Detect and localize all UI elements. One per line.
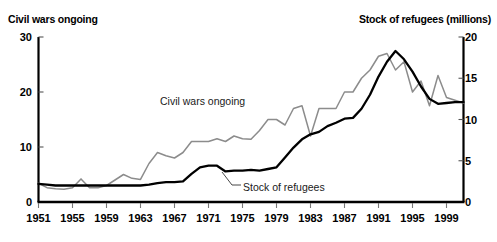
refugees-label-leader-line xyxy=(222,172,241,185)
series-annotation-civil-wars: Civil wars ongoing xyxy=(160,96,245,107)
plot-area xyxy=(0,0,497,242)
chart-container: Civil wars ongoing Stock of refugees (mi… xyxy=(0,0,497,242)
series-line-refugees xyxy=(39,51,464,185)
series-annotation-refugees: Stock of refugees xyxy=(243,182,325,193)
